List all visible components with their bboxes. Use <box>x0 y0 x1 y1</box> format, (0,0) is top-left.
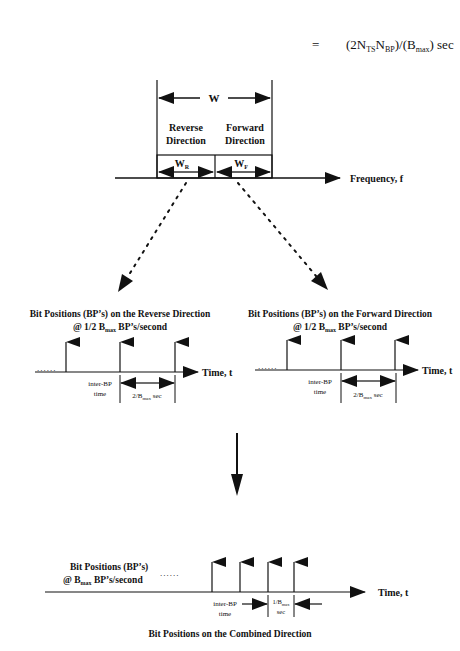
forward-panel-title: Bit Positions (BP’s) on the Forward Dire… <box>248 309 433 320</box>
forward-label-line2: Direction <box>225 135 265 146</box>
dotted-arrow-reverse-icon <box>118 274 133 292</box>
combined-spacing-label-line1: 1/Bmax <box>272 598 290 607</box>
w-label: W <box>209 92 220 104</box>
bandwidth-allocation: W Reverse Direction Forward Direction WR… <box>115 80 404 184</box>
reverse-inter-bp-line1: inter-BP <box>88 380 112 388</box>
down-arrow-icon <box>231 474 243 496</box>
split-arrows <box>118 183 328 292</box>
combine-arrow <box>231 433 243 496</box>
dotted-line-to-reverse <box>127 183 186 278</box>
forward-panel: Bit Positions (BP’s) on the Forward Dire… <box>248 309 453 403</box>
combined-dots: ...... <box>160 568 180 578</box>
wr-label: WR <box>175 158 190 170</box>
forward-label-line1: Forward <box>226 122 264 133</box>
combined-panel-title: Bit Positions (BP’s) <box>70 562 148 573</box>
combined-time-label: Time, t <box>378 587 409 598</box>
forward-time-label: Time, t <box>422 365 453 376</box>
combined-panel: Bit Positions (BP’s) @ Bmax BP’s/second … <box>45 562 409 639</box>
reverse-time-label: Time, t <box>202 367 233 378</box>
reverse-panel-rate: @ 1/2 Bmax BP’s/second <box>73 322 168 333</box>
forward-inter-bp-line1: inter-BP <box>308 378 332 386</box>
dotted-line-to-forward <box>238 183 316 276</box>
combined-spacing-label-line2: sec <box>277 608 285 615</box>
combined-inter-bp-line2: time <box>219 610 231 618</box>
bit-position-diagram: = (2NTSNBP)/(Bmax) sec W Reverse Directi… <box>0 0 460 651</box>
formula-expression: (2NTSNBP)/(Bmax) sec <box>346 37 454 54</box>
combined-caption: Bit Positions on the Combined Direction <box>148 629 312 639</box>
reverse-label-line2: Direction <box>166 135 206 146</box>
reverse-spacing-label: 2/Bmax sec <box>132 392 161 401</box>
wf-label: WF <box>234 158 248 170</box>
reverse-inter-bp-line2: time <box>94 390 106 398</box>
forward-inter-bp-line2: time <box>314 388 326 396</box>
formula-equals: = <box>312 37 319 52</box>
frequency-axis-label: Frequency, f <box>350 173 404 184</box>
forward-spacing-label: 2/Bmax sec <box>353 391 382 400</box>
combined-panel-rate: @ Bmax BP’s/second <box>63 575 143 586</box>
dotted-arrow-forward-icon <box>311 272 328 290</box>
combined-inter-bp-line1: inter-BP <box>213 600 237 608</box>
formula: = (2NTSNBP)/(Bmax) sec <box>312 37 454 54</box>
reverse-panel-title: Bit Positions (BP’s) on the Reverse Dire… <box>30 309 211 320</box>
forward-panel-rate: @ 1/2 Bmax BP’s/second <box>293 322 388 333</box>
reverse-label-line1: Reverse <box>169 122 203 133</box>
reverse-panel: Bit Positions (BP’s) on the Reverse Dire… <box>30 309 233 403</box>
